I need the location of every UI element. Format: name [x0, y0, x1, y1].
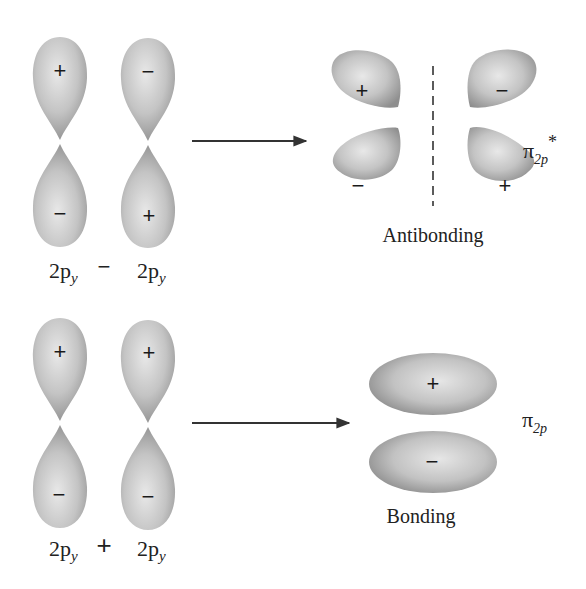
phase-sign: + — [499, 173, 512, 198]
pi-star-symbol: π2p* — [523, 132, 557, 167]
input-orbital-2: + − — [121, 320, 175, 530]
orbital-label: 2py — [137, 536, 166, 564]
bonding-section: + − + − 2py + 2py + − Bonding π2p — [33, 318, 547, 564]
operator-plus: + — [96, 530, 111, 560]
orbital-label: 2py — [49, 536, 78, 564]
p-lobe-top — [121, 38, 175, 141]
antibonding-caption: Antibonding — [382, 224, 483, 247]
bonding-orbital: + − — [369, 353, 497, 493]
input-labels: 2py + 2py — [49, 530, 166, 564]
input-orbital-1: + − — [33, 37, 87, 247]
phase-sign: − — [496, 78, 509, 103]
phase-sign: + — [427, 371, 440, 396]
phase-sign: − — [352, 173, 365, 198]
phase-sign: + — [143, 340, 156, 365]
orbital-label: 2py — [137, 258, 166, 286]
phase-sign: + — [143, 203, 156, 228]
pi-symbol: π2p — [522, 407, 547, 436]
p-lobe-bottom — [121, 145, 175, 248]
mo-diagram: + − − + 2py − 2py — [0, 0, 586, 589]
input-orbital-2: − + — [121, 38, 175, 248]
antibonding-orbital: + − − + — [332, 50, 537, 206]
input-orbital-1: + − — [33, 318, 87, 528]
orbital-label: 2py — [49, 258, 78, 286]
p-lobe-bottom — [33, 144, 87, 247]
phase-sign: + — [54, 339, 67, 364]
p-lobe-bottom — [121, 427, 175, 530]
phase-sign: + — [356, 78, 369, 103]
operator-minus: − — [98, 254, 111, 279]
phase-sign: − — [142, 59, 155, 84]
phase-sign: − — [54, 201, 67, 226]
phase-sign: − — [142, 484, 155, 509]
input-labels: 2py − 2py — [49, 254, 166, 286]
phase-sign: − — [53, 482, 66, 507]
phase-sign: − — [426, 449, 439, 474]
p-lobe-top — [121, 320, 175, 423]
p-lobe-top — [33, 318, 87, 421]
p-lobe-bottom — [33, 425, 87, 528]
lobe-bottom-left — [333, 128, 401, 180]
antibonding-section: + − − + 2py − 2py — [33, 37, 557, 286]
bonding-caption: Bonding — [387, 505, 456, 528]
p-lobe-top — [33, 37, 87, 140]
phase-sign: + — [54, 58, 67, 83]
